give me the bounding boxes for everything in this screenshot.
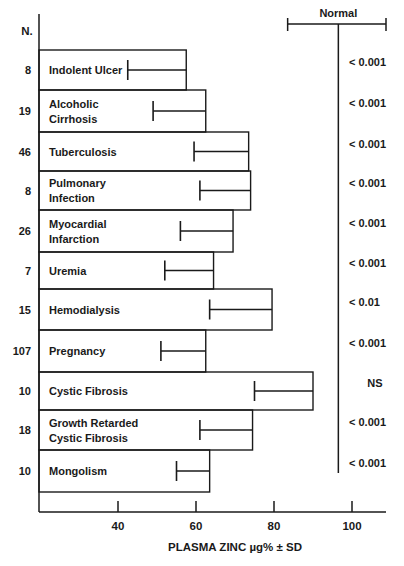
n-value: 7 — [25, 265, 31, 277]
p-value: < 0.001 — [349, 217, 386, 229]
p-value: < 0.001 — [349, 177, 386, 189]
category-label: Infarction — [49, 233, 99, 245]
p-value: < 0.001 — [349, 257, 386, 269]
axes-group: Normal406080100 — [39, 7, 386, 532]
category-label: Pulmonary — [49, 177, 107, 189]
bar-row: MyocardialInfarction26< 0.001 — [19, 210, 386, 252]
category-label: Mongolism — [49, 465, 107, 477]
x-tick-label: 100 — [342, 520, 361, 532]
p-value: < 0.001 — [349, 337, 386, 349]
bar-row: Uremia7< 0.001 — [25, 252, 386, 289]
plasma-zinc-chart: Indolent Ulcer8< 0.001AlcoholicCirrhosis… — [0, 0, 404, 566]
category-label: Hemodialysis — [49, 304, 120, 316]
category-label: Tuberculosis — [49, 146, 117, 158]
p-value: < 0.001 — [349, 457, 386, 469]
x-tick-label: 40 — [112, 520, 125, 532]
bar-row: AlcoholicCirrhosis19< 0.001 — [19, 90, 386, 132]
x-axis-label: PLASMA ZINC µg% ± SD — [168, 541, 302, 553]
p-value: < 0.001 — [349, 56, 386, 68]
n-value: 26 — [19, 225, 31, 237]
n-value: 18 — [19, 424, 31, 436]
category-label: Growth Retarded — [49, 417, 138, 429]
bar-row: Growth RetardedCystic Fibrosis18< 0.001 — [19, 410, 386, 450]
p-value: NS — [367, 377, 382, 389]
category-label: Myocardial — [49, 218, 106, 230]
normal-label: Normal — [319, 7, 357, 19]
bar-row: PulmonaryInfection8< 0.001 — [25, 171, 386, 210]
bar-row: Pregnancy107< 0.001 — [13, 330, 386, 372]
x-tick-label: 80 — [268, 520, 281, 532]
n-value: 46 — [19, 146, 31, 158]
n-value: 8 — [25, 185, 31, 197]
category-label: Uremia — [49, 265, 87, 277]
category-label: Alcoholic — [49, 98, 99, 110]
p-value: < 0.001 — [349, 138, 386, 150]
bars-group: Indolent Ulcer8< 0.001AlcoholicCirrhosis… — [13, 50, 386, 492]
x-tick-label: 60 — [190, 520, 203, 532]
category-label: Cystic Fibrosis — [49, 385, 128, 397]
p-value: < 0.01 — [349, 296, 380, 308]
bar-row: Tuberculosis46< 0.001 — [19, 132, 386, 171]
bar-row: Mongolism10< 0.001 — [19, 450, 386, 492]
category-label: Infection — [49, 192, 95, 204]
category-label: Cirrhosis — [49, 113, 97, 125]
n-value: 10 — [19, 385, 31, 397]
n-value: 107 — [13, 345, 31, 357]
bar-row: Cystic Fibrosis10NS — [19, 372, 383, 410]
n-value: 15 — [19, 304, 31, 316]
p-value: < 0.001 — [349, 416, 386, 428]
category-label: Indolent Ulcer — [49, 64, 123, 76]
p-value: < 0.001 — [349, 97, 386, 109]
category-label: Cystic Fibrosis — [49, 432, 128, 444]
n-value: 8 — [25, 64, 31, 76]
n-column-header: N. — [21, 25, 33, 37]
n-value: 10 — [19, 465, 31, 477]
category-label: Pregnancy — [49, 345, 106, 357]
bar-row: Hemodialysis15< 0.01 — [19, 289, 380, 330]
n-value: 19 — [19, 105, 31, 117]
bar-row: Indolent Ulcer8< 0.001 — [25, 50, 386, 90]
